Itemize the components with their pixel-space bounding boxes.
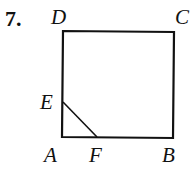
geometry-figure: 7. D C E A F B bbox=[0, 0, 193, 170]
label-f: F bbox=[88, 143, 102, 167]
segment-ef bbox=[63, 102, 97, 137]
label-a: A bbox=[42, 143, 57, 167]
label-e: E bbox=[39, 90, 53, 114]
label-d: D bbox=[50, 5, 66, 29]
label-b: B bbox=[162, 143, 175, 167]
label-c: C bbox=[175, 5, 190, 29]
problem-number: 7. bbox=[5, 6, 22, 31]
square-abcd bbox=[62, 31, 174, 138]
